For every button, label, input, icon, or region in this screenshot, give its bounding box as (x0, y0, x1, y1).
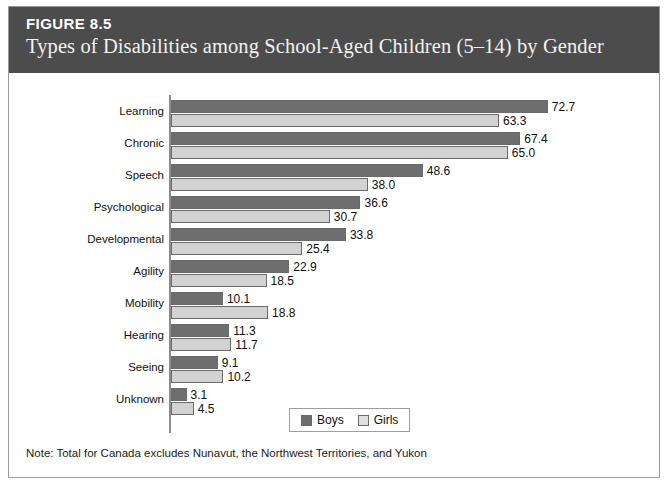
bar-fill-boys (171, 164, 423, 177)
bar-fill-girls (171, 242, 303, 255)
bar-value-label: 33.8 (350, 228, 373, 242)
chart-category-row: Chronic67.465.0 (9, 131, 659, 163)
category-label: Developmental (0, 233, 164, 245)
legend-swatch-girls-icon (358, 415, 369, 426)
bar-girls: 25.4 (171, 242, 303, 255)
figure-title: Types of Disabilities among School-Aged … (26, 33, 659, 60)
bar-value-label: 38.0 (372, 178, 395, 192)
bar-girls: 11.7 (171, 338, 232, 351)
bar-girls: 18.5 (171, 274, 267, 287)
chart-plot-area: Learning72.763.3Chronic67.465.0Speech48.… (9, 73, 659, 435)
bar-value-label: 65.0 (512, 146, 535, 160)
chart-category-row: Speech48.638.0 (9, 163, 659, 195)
bar-value-label: 22.9 (293, 260, 316, 274)
bar-value-label: 67.4 (524, 132, 547, 146)
bar-fill-boys (171, 388, 187, 401)
bar-fill-girls (171, 178, 368, 191)
bar-girls: 65.0 (171, 146, 508, 159)
bar-girls: 10.2 (171, 370, 224, 383)
bar-value-label: 11.3 (233, 324, 255, 338)
chart-category-row: Seeing9.110.2 (9, 355, 659, 387)
bar-boys: 72.7 (171, 100, 548, 113)
bar-value-label: 10.2 (227, 370, 250, 384)
chart-category-row: Developmental33.825.4 (9, 227, 659, 259)
bar-fill-boys (171, 324, 230, 337)
bar-fill-girls (171, 210, 330, 223)
chart-category-row: Mobility10.118.8 (9, 291, 659, 323)
figure-number: FIGURE 8.5 (26, 14, 659, 33)
category-label: Learning (0, 105, 164, 117)
category-label: Psychological (0, 201, 164, 213)
chart-legend: Boys Girls (289, 408, 410, 432)
chart-category-row: Learning72.763.3 (9, 99, 659, 131)
bar-boys: 11.3 (171, 324, 230, 337)
bar-girls: 4.5 (171, 402, 194, 415)
figure-card: FIGURE 8.5 Types of Disabilities among S… (8, 6, 660, 478)
bar-boys: 10.1 (171, 292, 223, 305)
bar-boys: 48.6 (171, 164, 423, 177)
bar-fill-girls (171, 370, 224, 383)
chart-category-row: Hearing11.311.7 (9, 323, 659, 355)
bar-fill-girls (171, 146, 508, 159)
legend-label-girls: Girls (374, 413, 399, 427)
category-label: Speech (0, 169, 164, 181)
legend-item-boys: Boys (301, 413, 344, 427)
bar-value-label: 36.6 (364, 196, 387, 210)
bar-boys: 9.1 (171, 356, 218, 369)
legend-swatch-boys-icon (301, 415, 312, 426)
bar-boys: 67.4 (171, 132, 521, 145)
bar-value-label: 3.1 (191, 388, 208, 402)
category-label: Chronic (0, 137, 164, 149)
chart-category-row: Agility22.918.5 (9, 259, 659, 291)
bar-value-label: 18.5 (271, 274, 294, 288)
bar-girls: 38.0 (171, 178, 368, 191)
bar-value-label: 72.7 (552, 100, 575, 114)
category-label: Mobility (0, 297, 164, 309)
bar-value-label: 63.3 (503, 114, 526, 128)
bar-boys: 3.1 (171, 388, 187, 401)
bar-girls: 63.3 (171, 114, 500, 127)
legend-item-girls: Girls (358, 413, 399, 427)
category-label: Hearing (0, 329, 164, 341)
figure-header-band: FIGURE 8.5 Types of Disabilities among S… (9, 7, 659, 73)
bar-fill-boys (171, 228, 346, 241)
category-label: Seeing (0, 361, 164, 373)
bar-fill-boys (171, 356, 218, 369)
bar-fill-boys (171, 292, 223, 305)
bar-value-label: 25.4 (306, 242, 329, 256)
figure-note: Note: Total for Canada excludes Nunavut,… (26, 447, 427, 459)
bar-boys: 33.8 (171, 228, 346, 241)
bar-value-label: 9.1 (222, 356, 239, 370)
bar-fill-boys (171, 100, 548, 113)
legend-label-boys: Boys (317, 413, 344, 427)
bar-fill-boys (171, 260, 290, 273)
bar-value-label: 11.7 (235, 338, 257, 352)
bar-fill-girls (171, 338, 232, 351)
bar-value-label: 4.5 (198, 402, 215, 416)
bar-value-label: 48.6 (427, 164, 450, 178)
bar-girls: 30.7 (171, 210, 330, 223)
bar-girls: 18.8 (171, 306, 269, 319)
bar-fill-girls (171, 274, 267, 287)
bar-boys: 22.9 (171, 260, 290, 273)
bar-value-label: 30.7 (334, 210, 357, 224)
bar-boys: 36.6 (171, 196, 361, 209)
category-label: Agility (0, 265, 164, 277)
bar-fill-girls (171, 306, 269, 319)
category-label: Unknown (0, 393, 164, 405)
bar-fill-boys (171, 196, 361, 209)
bar-fill-boys (171, 132, 521, 145)
bar-fill-girls (171, 402, 194, 415)
bar-fill-girls (171, 114, 500, 127)
chart-category-row: Psychological36.630.7 (9, 195, 659, 227)
bar-value-label: 18.8 (272, 306, 295, 320)
bar-value-label: 10.1 (227, 292, 250, 306)
